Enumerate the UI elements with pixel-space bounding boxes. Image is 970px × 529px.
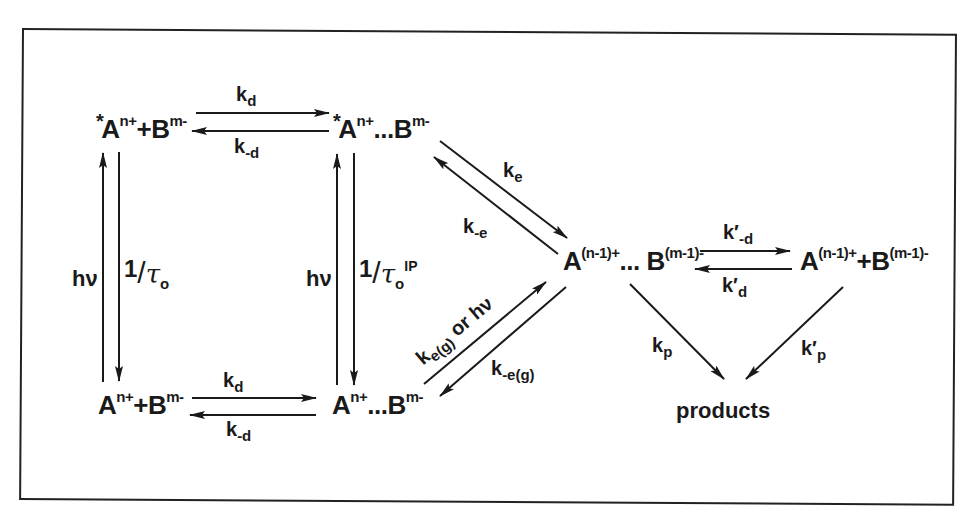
label-tau-middle: 1/τoIP <box>359 258 418 288</box>
label-kprime-d: k′d <box>722 275 747 295</box>
arrow-kp <box>630 284 724 379</box>
label-kd-bottom: kd <box>223 370 243 390</box>
label-kp: kp <box>652 335 672 355</box>
species-products: products <box>676 400 770 422</box>
species-ground-pair: An+...Bm- <box>332 392 423 418</box>
label-k-minus-d-top: k-d <box>234 136 259 156</box>
label-kprime-p: k′p <box>801 338 826 358</box>
species-ground-free: An++Bm- <box>98 392 184 418</box>
label-k-minus-d-bottom: k-d <box>226 419 251 439</box>
species-excited-pair: *An+...Bm- <box>333 116 429 142</box>
arrow-kprime-p <box>746 287 843 379</box>
arrow-ke <box>440 141 567 238</box>
label-kprime-minus-d: k′-d <box>723 222 753 242</box>
label-ke: ke <box>503 160 522 180</box>
species-excited-free: *An++Bm- <box>96 116 187 142</box>
label-k-minus-e: k-e <box>463 216 487 236</box>
species-et-free: A(n-1)++B(m-1)- <box>800 248 928 274</box>
label-kd-top: kd <box>236 84 256 104</box>
species-et-pair: A(n-1)+... B(m-1)- <box>563 248 703 274</box>
label-hv-middle: hν <box>306 268 332 290</box>
label-k-minus-e-g: k-e(g) <box>491 358 535 378</box>
arrow-k-minus-e <box>434 157 558 254</box>
label-tau-left: 1/τo <box>124 258 169 288</box>
label-hv-left: hν <box>72 268 98 290</box>
